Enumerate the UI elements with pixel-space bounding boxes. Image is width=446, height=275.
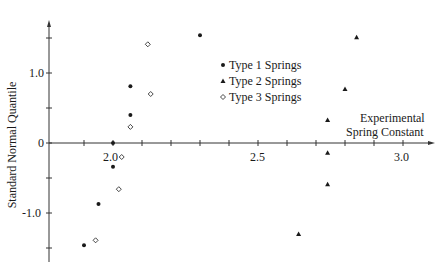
type1-point-icon (128, 84, 132, 88)
legend-item-type1: Type 1 Springs (220, 57, 302, 73)
legend-item-type3: Type 3 Springs (220, 89, 302, 105)
x-axis-arrow-icon (428, 141, 435, 145)
legend-item-type2: Type 2 Springs (220, 73, 302, 89)
legend-label: Type 1 Springs (229, 57, 302, 73)
type3-point-icon (116, 187, 121, 192)
legend: Type 1 Springs Type 2 Springs Type 3 Spr… (220, 57, 302, 105)
type2-point-icon (325, 182, 330, 187)
type2-point-icon (343, 87, 348, 92)
type3-point-icon (145, 42, 150, 47)
type1-point-icon (82, 243, 86, 247)
type2-point-icon (325, 150, 330, 155)
legend-label: Type 3 Springs (229, 89, 302, 105)
x-tick-label-2-5: 2.5 (250, 150, 265, 164)
type1-point-icon (198, 33, 202, 37)
type2-point-icon (325, 117, 330, 122)
filled-circle-icon (220, 62, 226, 68)
type1-point-icon (111, 141, 115, 145)
type1-point-icon (111, 165, 115, 169)
type3-point-icon (93, 238, 98, 243)
type2-point-icon (296, 232, 301, 237)
type1-point-icon (128, 113, 132, 117)
type1-point-icon (97, 202, 101, 206)
legend-label: Type 2 Springs (229, 73, 302, 89)
x-tick-label-3-0: 3.0 (394, 150, 409, 164)
y-tick-label-neg1: -1.0 (22, 206, 41, 220)
type3-point-icon (128, 124, 133, 129)
y-tick-label-1: 1.0 (29, 66, 44, 80)
open-diamond-icon (220, 94, 226, 100)
type2-point-icon (354, 35, 359, 40)
x-axis-label-line1: Experimental (360, 111, 425, 125)
filled-triangle-icon (220, 78, 226, 84)
type3-point-icon (148, 92, 153, 97)
x-axis-label-line2: Spring Constant (346, 125, 424, 139)
y-axis-arrow-icon (47, 20, 51, 27)
x-tick-label-2-0: 2.0 (103, 150, 118, 164)
y-axis-label: Standard Normal Quantile (5, 82, 20, 209)
y-tick-label-0: 0 (38, 136, 44, 150)
type3-point-icon (119, 155, 124, 160)
